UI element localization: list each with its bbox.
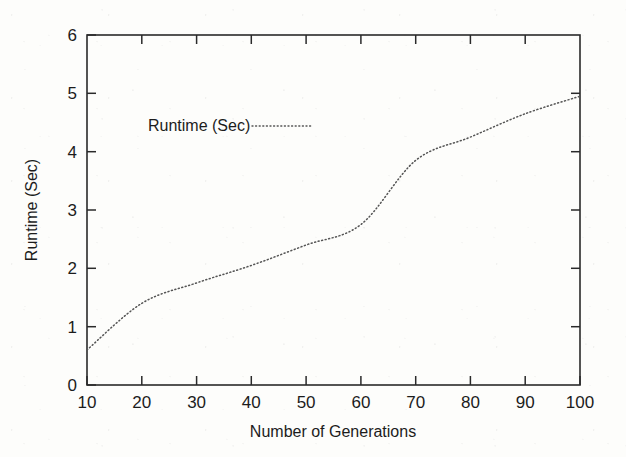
runtime-vs-generations-figure: 0 1 2 3 4 5 6 10 20 30 40 50 60 70 80 90… — [0, 0, 626, 457]
x-tick-label-30: 30 — [187, 393, 206, 412]
x-tick-label-60: 60 — [351, 393, 370, 412]
y-tick-label-6: 6 — [68, 26, 77, 45]
x-axis-title: Number of Generations — [250, 423, 416, 440]
x-axis-ticks-bottom — [87, 376, 580, 385]
y-axis-title: Runtime (Sec) — [23, 159, 40, 261]
x-tick-label-80: 80 — [461, 393, 480, 412]
x-tick-label-40: 40 — [242, 393, 261, 412]
y-tick-label-2: 2 — [68, 259, 77, 278]
y-tick-label-4: 4 — [68, 143, 77, 162]
x-axis-ticks-top — [142, 35, 525, 44]
x-tick-label-100: 100 — [566, 393, 594, 412]
plot-frame — [87, 35, 580, 385]
y-tick-label-3: 3 — [68, 201, 77, 220]
line-chart: 0 1 2 3 4 5 6 10 20 30 40 50 60 70 80 90… — [0, 0, 626, 457]
y-tick-label-5: 5 — [68, 84, 77, 103]
legend-label-runtime: Runtime (Sec) — [148, 117, 250, 134]
x-tick-label-90: 90 — [516, 393, 535, 412]
y-axis-ticks-right — [571, 93, 580, 326]
legend: Runtime (Sec) — [148, 117, 312, 134]
x-tick-label-70: 70 — [406, 393, 425, 412]
x-tick-label-10: 10 — [78, 393, 97, 412]
x-tick-label-20: 20 — [132, 393, 151, 412]
x-tick-label-50: 50 — [297, 393, 316, 412]
y-tick-label-0: 0 — [68, 376, 77, 395]
y-axis-ticks-left — [87, 35, 96, 385]
series-runtime-line — [87, 96, 580, 350]
y-tick-label-1: 1 — [68, 318, 77, 337]
